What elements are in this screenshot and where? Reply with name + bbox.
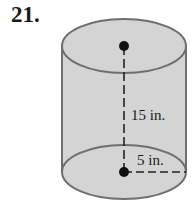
radius-label: 5 in. [137, 152, 164, 168]
bottom-center-dot [119, 167, 129, 177]
top-center-dot [119, 41, 129, 51]
cylinder-figure: 15 in. 5 in. [0, 0, 195, 221]
height-label: 15 in. [131, 107, 165, 123]
